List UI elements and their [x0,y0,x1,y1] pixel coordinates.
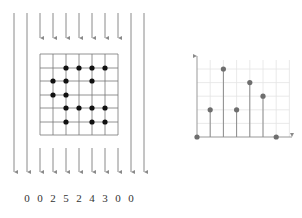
grid-dot [50,92,55,97]
grid-dot [76,65,81,70]
projection-diagram: 002524300 [0,0,302,218]
count-label: 2 [76,192,82,204]
stem-marker [274,134,279,139]
grid-dot [89,78,94,83]
count-label: 3 [102,192,108,204]
count-label: 4 [89,192,95,204]
grid-dot [89,119,94,124]
stem-marker [234,107,239,112]
dot-grid [40,54,118,135]
grid-dot [102,105,107,110]
grid-dot [76,105,81,110]
grid-dot [102,119,107,124]
count-label: 0 [37,192,43,204]
grid-dot [63,92,68,97]
grid-dot [63,105,68,110]
grid-dot [63,78,68,83]
count-label: 0 [128,192,134,204]
stem-marker [247,80,252,85]
count-label: 5 [63,192,69,204]
grid-dot [89,105,94,110]
grid-dot [102,65,107,70]
stem-marker [221,66,226,71]
grid-dot [63,119,68,124]
count-label: 0 [24,192,30,204]
stem-marker [208,107,213,112]
grid-dot [89,65,94,70]
count-label: 2 [50,192,56,204]
column-counts: 002524300 [24,192,134,204]
count-label: 0 [115,192,121,204]
grid-dot [50,78,55,83]
stem-marker [260,94,265,99]
grid-dot [63,65,68,70]
stem-chart [194,56,292,140]
stem-marker [194,134,199,139]
